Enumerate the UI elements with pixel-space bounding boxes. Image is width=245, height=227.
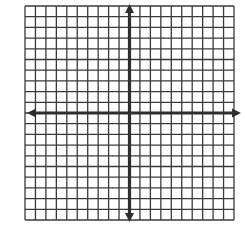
arrow-right-icon — [232, 109, 241, 118]
arrow-left-icon — [27, 109, 36, 118]
coordinate-plane — [0, 0, 245, 227]
axes — [27, 4, 241, 222]
